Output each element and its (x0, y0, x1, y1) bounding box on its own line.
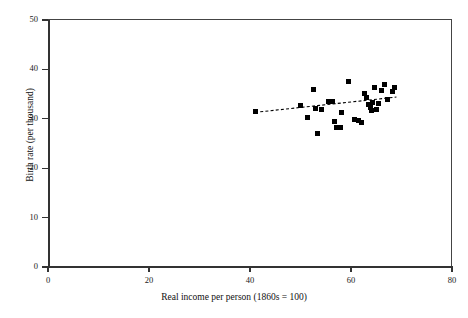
trend-line (48, 20, 452, 267)
y-tick-label: 0 (12, 262, 38, 271)
data-point (382, 82, 387, 87)
y-axis-label: Birth rate (per thousand) (25, 55, 35, 215)
data-point (372, 85, 377, 90)
data-point (305, 115, 310, 120)
data-point (376, 101, 381, 106)
data-point (330, 99, 335, 104)
x-tick-label: 0 (35, 276, 61, 285)
data-point (332, 119, 337, 124)
data-point (313, 106, 318, 111)
data-point (319, 107, 324, 112)
data-point (392, 85, 397, 90)
data-point (385, 97, 390, 102)
x-tick-label: 20 (136, 276, 162, 285)
x-tick-label: 60 (338, 276, 364, 285)
data-point (359, 120, 364, 125)
data-point (311, 87, 316, 92)
data-point (339, 110, 344, 115)
data-point (346, 79, 351, 84)
data-point (379, 88, 384, 93)
x-axis-label: Real income per person (1860s = 100) (0, 292, 468, 302)
data-point (298, 103, 303, 108)
data-point (364, 95, 369, 100)
data-point (315, 131, 320, 136)
x-tick-label: 40 (237, 276, 263, 285)
scatter-chart: 01020304050 020406080 Birth rate (per th… (0, 0, 468, 318)
data-point (338, 125, 343, 130)
data-point (253, 109, 258, 114)
x-tick-label: 80 (439, 276, 465, 285)
data-point (374, 107, 379, 112)
data-point (370, 100, 375, 105)
plot-area (48, 20, 452, 267)
y-tick-label: 50 (12, 15, 38, 24)
